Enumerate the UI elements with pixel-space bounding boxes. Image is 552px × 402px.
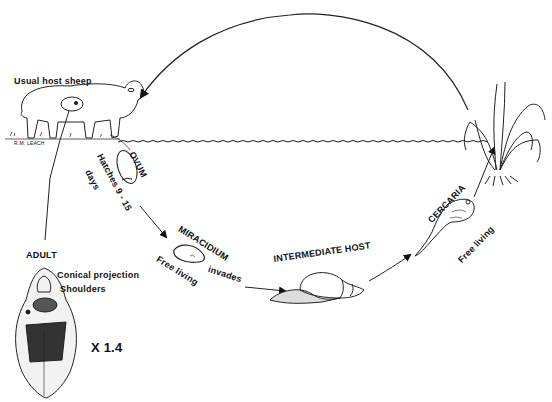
- snail-to-cercaria-arrow: [369, 255, 410, 281]
- cercaria-to-grass-arrow: [474, 148, 494, 197]
- host-label: Usual host sheep: [14, 76, 92, 86]
- return-arc-arrow: [141, 14, 468, 110]
- miracidium-illustration: [174, 245, 205, 262]
- magnification-label: X 1.4: [91, 340, 122, 355]
- liver-inset: [45, 97, 83, 240]
- conical-projection-label: Conical projection: [57, 270, 139, 280]
- shoulders-label: Shoulders: [60, 284, 106, 294]
- water-line: [118, 141, 488, 143]
- life-cycle-diagram: [0, 0, 552, 402]
- artist-signature: R.M. LEACH: [14, 140, 45, 146]
- adult-label: ADULT: [26, 250, 57, 260]
- snail-illustration: [270, 273, 364, 304]
- invades-arrow: [245, 287, 285, 291]
- grass-illustration: [464, 82, 545, 186]
- sheep-illustration: [21, 81, 143, 138]
- ovum-to-miracidium-arrow: [140, 206, 166, 237]
